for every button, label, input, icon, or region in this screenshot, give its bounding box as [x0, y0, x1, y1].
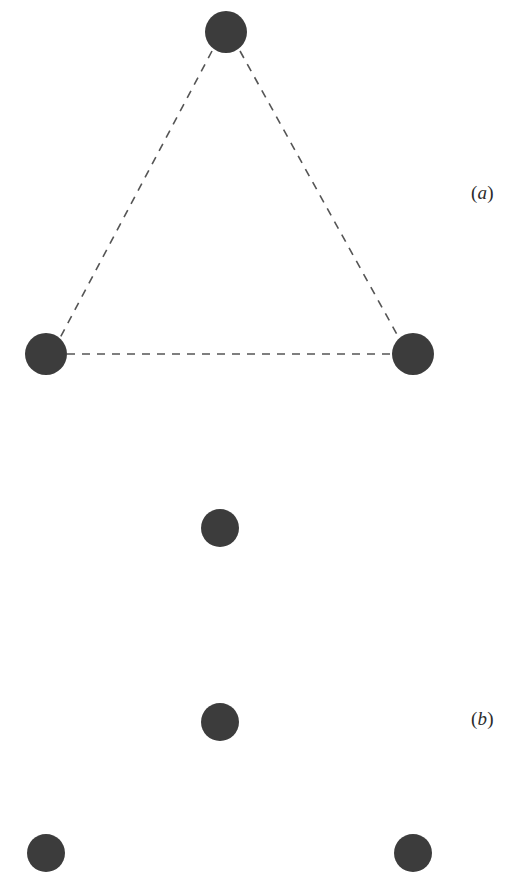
figure-graphic — [0, 0, 513, 891]
edge-a-top-left — [60, 51, 212, 338]
edge-a-top-right — [240, 51, 399, 338]
panel-label-a-letter: a — [478, 182, 488, 203]
figure-canvas: (a) (b) — [0, 0, 513, 891]
node-a-right — [392, 333, 434, 375]
panel-label-a-close-paren: ) — [487, 182, 494, 203]
node-a-top — [205, 11, 247, 53]
node-b-middle — [201, 703, 239, 741]
panel-b-nodes — [27, 509, 432, 872]
panel-label-b-letter: b — [478, 708, 488, 729]
panel-a-graph — [25, 11, 434, 375]
node-b-bottom-left — [27, 834, 65, 872]
panel-a-edges — [60, 51, 399, 354]
panel-label-a: (a) — [471, 182, 494, 204]
panel-b-graph — [27, 509, 432, 872]
node-b-top — [201, 509, 239, 547]
panel-a-nodes — [25, 11, 434, 375]
panel-label-b: (b) — [471, 708, 494, 730]
node-a-left — [25, 333, 67, 375]
node-b-bottom-right — [394, 834, 432, 872]
panel-label-b-close-paren: ) — [487, 708, 494, 729]
